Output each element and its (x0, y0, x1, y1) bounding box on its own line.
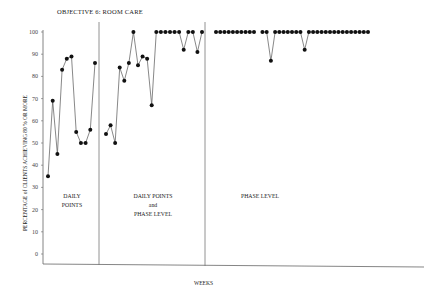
data-point (222, 30, 226, 34)
y-tick-label: 80 (32, 73, 38, 79)
data-point (244, 30, 248, 34)
data-point (214, 30, 218, 34)
data-point (74, 130, 78, 134)
data-point (303, 48, 307, 52)
data-point (104, 132, 108, 136)
data-point (136, 63, 140, 67)
series-line (48, 56, 95, 176)
data-point (177, 30, 181, 34)
y-tick-label: 70 (32, 96, 38, 102)
data-point (51, 99, 55, 103)
data-point (353, 30, 357, 34)
data-point (159, 30, 163, 34)
data-point (336, 30, 340, 34)
data-point (141, 54, 145, 58)
data-point (324, 30, 328, 34)
data-point (341, 30, 345, 34)
data-point (60, 68, 64, 72)
data-point (168, 30, 172, 34)
data-point (345, 30, 349, 34)
y-tick-label: 60 (32, 118, 38, 124)
data-point (65, 57, 69, 61)
data-point (163, 30, 167, 34)
series-line (262, 32, 368, 61)
data-point (298, 30, 302, 34)
data-point (235, 30, 239, 34)
data-point (218, 30, 222, 34)
data-point (248, 30, 252, 34)
data-point (70, 54, 74, 58)
data-point (332, 30, 336, 34)
data-point (349, 30, 353, 34)
data-point (260, 30, 264, 34)
y-tick-label: 20 (32, 207, 38, 213)
data-point (277, 30, 281, 34)
data-point (227, 30, 231, 34)
data-point (265, 30, 269, 34)
data-point (145, 57, 149, 61)
data-point (273, 30, 277, 34)
x-axis (43, 264, 424, 267)
data-point (109, 123, 113, 127)
data-point (328, 30, 332, 34)
series-line (106, 32, 202, 143)
data-point (200, 30, 204, 34)
data-point (122, 79, 126, 83)
data-point (84, 141, 88, 145)
data-point (239, 30, 243, 34)
data-point (93, 61, 97, 65)
data-point (118, 66, 122, 70)
data-point (358, 30, 362, 34)
data-point (182, 48, 186, 52)
y-tick-label: 100 (29, 29, 38, 35)
data-point (269, 59, 273, 63)
data-point (315, 30, 319, 34)
data-point (55, 152, 59, 156)
data-point (282, 30, 286, 34)
data-point (252, 30, 256, 34)
data-point (195, 50, 199, 54)
plot-area: 0102030405060708090100 (0, 0, 429, 293)
data-point (113, 141, 117, 145)
data-point (362, 30, 366, 34)
data-point (231, 30, 235, 34)
data-point (311, 30, 315, 34)
data-point (290, 30, 294, 34)
y-tick-label: 0 (35, 251, 38, 257)
data-point (186, 30, 190, 34)
y-tick-label: 90 (32, 51, 38, 57)
data-point (131, 30, 135, 34)
data-point (46, 174, 50, 178)
data-point (366, 30, 370, 34)
data-point (320, 30, 324, 34)
y-tick-label: 40 (32, 162, 38, 168)
data-point (286, 30, 290, 34)
data-point (150, 103, 154, 107)
data-point (191, 30, 195, 34)
data-point (127, 61, 131, 65)
data-point (294, 30, 298, 34)
data-point (154, 30, 158, 34)
y-tick-label: 10 (32, 229, 38, 235)
data-point (173, 30, 177, 34)
data-point (79, 141, 83, 145)
data-point (88, 128, 92, 132)
data-point (307, 30, 311, 34)
y-tick-label: 30 (32, 184, 38, 190)
y-tick-label: 50 (32, 140, 38, 146)
